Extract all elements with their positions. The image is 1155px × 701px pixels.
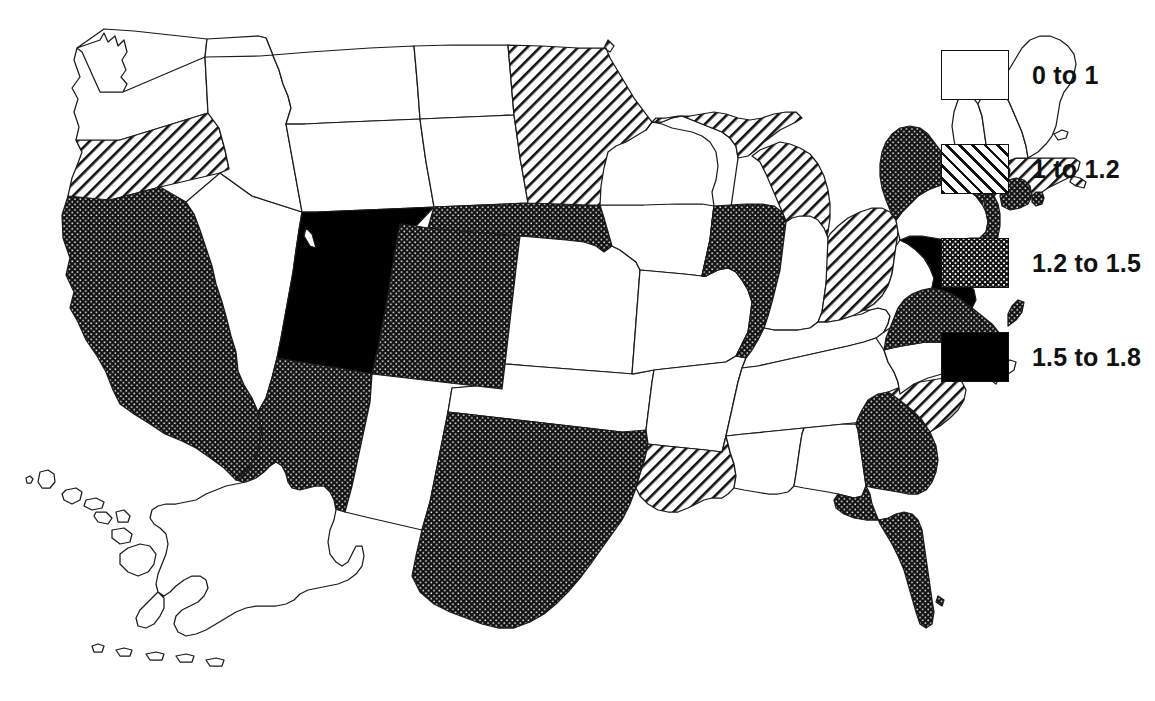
map-legend: 0 to 1 1 to 1.2 1.2 to 1.5 1.5 to 1.8: [941, 50, 1155, 382]
state-HI[interactable]: [26, 476, 33, 483]
state-HI-2[interactable]: [38, 470, 55, 488]
state-HI-3[interactable]: [62, 488, 82, 504]
state-HI-6[interactable]: [116, 510, 130, 522]
state-MN[interactable]: [508, 40, 652, 205]
legend-label-2: 1.2 to 1.5: [1032, 251, 1141, 276]
state-AL[interactable]: [794, 424, 866, 498]
legend-row-0[interactable]: 0 to 1: [941, 50, 1155, 100]
state-HI-7[interactable]: [112, 528, 132, 544]
legend-swatch-black: [941, 332, 1009, 382]
state-HI-4[interactable]: [84, 498, 104, 510]
legend-row-1[interactable]: 1 to 1.2: [941, 144, 1155, 194]
state-WY[interactable]: [286, 119, 434, 212]
legend-swatch-crosshatch: [941, 238, 1009, 288]
legend-row-2[interactable]: 1.2 to 1.5: [941, 238, 1155, 288]
choropleth-figure: 0 to 1 1 to 1.2 1.2 to 1.5 1.5 to 1.8: [0, 0, 1155, 701]
legend-row-3[interactable]: 1.5 to 1.8: [941, 332, 1155, 382]
state-SD[interactable]: [420, 115, 528, 207]
state-TX[interactable]: [412, 412, 648, 628]
legend-swatch-hatch: [941, 144, 1009, 194]
state-HI-5[interactable]: [94, 512, 112, 524]
state-FL[interactable]: [834, 486, 944, 628]
state-KS[interactable]: [505, 236, 640, 374]
state-HI-8[interactable]: [120, 544, 156, 576]
state-MS[interactable]: [726, 428, 804, 494]
legend-label-0: 0 to 1: [1032, 63, 1099, 88]
state-ND[interactable]: [414, 45, 514, 119]
legend-label-3: 1.5 to 1.8: [1032, 345, 1141, 370]
legend-swatch-white: [941, 50, 1009, 100]
legend-label-1: 1 to 1.2: [1032, 157, 1120, 182]
